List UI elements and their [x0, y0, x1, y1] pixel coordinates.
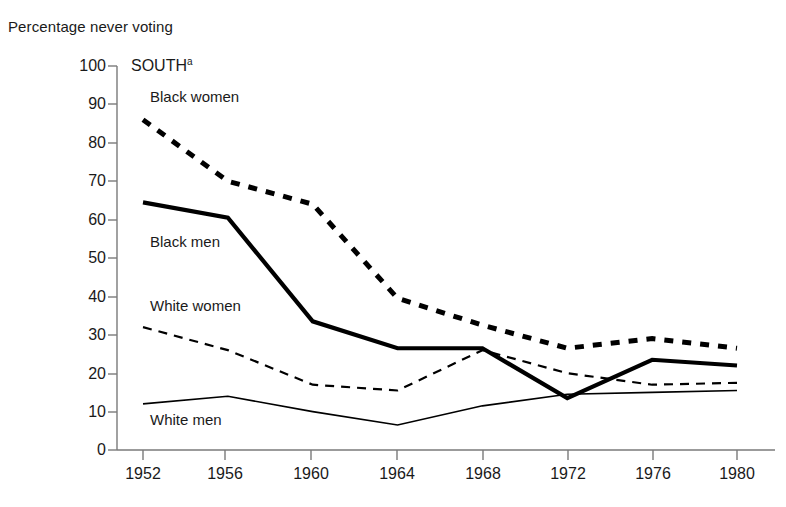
chart-page: Percentage never voting SOUTHa 100 90 80…: [0, 0, 786, 507]
axes: [108, 66, 775, 460]
series-line-white-men: [143, 390, 737, 425]
series-line-black-women: [143, 120, 737, 348]
series-lines: [143, 120, 737, 425]
y-axis-ticks: [108, 66, 117, 450]
x-axis-ticks: [143, 450, 737, 460]
series-line-black-men: [143, 202, 737, 398]
plot-area: [0, 0, 786, 507]
